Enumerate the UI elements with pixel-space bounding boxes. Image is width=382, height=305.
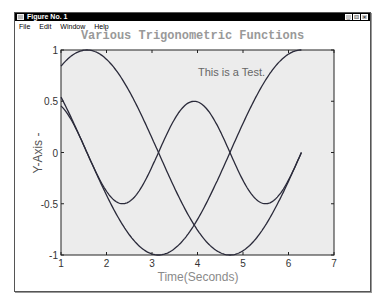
- x-axis-label: Time(Seconds): [158, 270, 239, 284]
- chart-canvas: 1234567 10.50-0.5-1 Time(Seconds) Y-Axis…: [0, 0, 382, 305]
- x-tick-label: 7: [331, 258, 337, 269]
- x-tick-label: 4: [195, 258, 201, 269]
- x-tick-label: 1: [58, 258, 64, 269]
- x-tick-label: 2: [104, 258, 110, 269]
- y-axis-label: Y-Axis -: [31, 133, 45, 174]
- y-tick-label: 0.5: [44, 96, 58, 107]
- y-tick-label: 0: [52, 148, 58, 159]
- x-tick-labels: 1234567: [58, 258, 337, 269]
- y-tick-label: -1: [49, 250, 58, 261]
- x-tick-label: 3: [149, 258, 155, 269]
- y-tick-label: 1: [52, 45, 58, 56]
- y-tick-label: -0.5: [41, 199, 59, 210]
- axes-area: [61, 50, 334, 255]
- x-tick-label: 5: [240, 258, 246, 269]
- x-tick-label: 6: [286, 258, 292, 269]
- annotation-text: This is a Test.: [198, 66, 265, 78]
